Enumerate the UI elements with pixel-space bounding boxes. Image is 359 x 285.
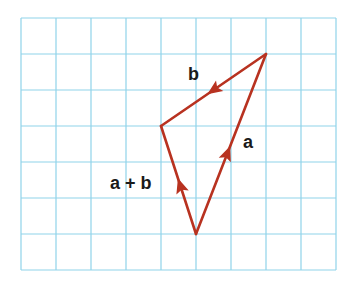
- label-b: b: [188, 65, 199, 83]
- arrowhead-icon: [207, 80, 223, 94]
- grid: [21, 18, 336, 270]
- label-a: a: [243, 133, 253, 151]
- vector-addition-diagram: [0, 0, 359, 285]
- label-a-plus-b: a + b: [110, 174, 152, 192]
